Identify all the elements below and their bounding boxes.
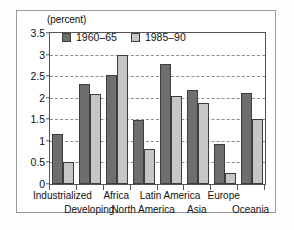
y-axis-tick-label: 2 xyxy=(39,92,45,104)
bar xyxy=(241,93,252,184)
bar xyxy=(144,149,155,184)
x-axis-tick-mark xyxy=(183,185,184,190)
bar xyxy=(52,134,63,184)
bar xyxy=(117,55,128,184)
bar xyxy=(171,96,182,184)
legend-label: 1960–65 xyxy=(76,31,117,43)
x-axis-category-label: Latin America xyxy=(140,190,201,201)
bar xyxy=(90,94,101,184)
x-axis-category-label: North America xyxy=(111,204,174,215)
bar xyxy=(252,119,263,184)
x-axis-category-label: Developing xyxy=(64,204,114,215)
bar xyxy=(133,120,144,184)
y-axis-tick-label: 1 xyxy=(39,135,45,147)
x-axis-category-label: Asia xyxy=(187,204,206,215)
legend-swatch-icon xyxy=(62,33,71,42)
plot-area: 00.511.522.533.5 xyxy=(49,32,266,185)
bar xyxy=(214,144,225,184)
y-axis-tick-label: 3 xyxy=(39,49,45,61)
bars-layer xyxy=(50,33,265,184)
legend-entry: 1960–65 xyxy=(62,31,117,43)
x-axis-tick-mark xyxy=(157,185,158,190)
x-axis-tick-mark xyxy=(49,185,50,190)
y-axis-tick-label: 0 xyxy=(39,178,45,190)
bar xyxy=(225,173,236,184)
x-axis-category-label: Africa xyxy=(103,190,129,201)
bar xyxy=(63,162,74,184)
x-axis-tick-mark xyxy=(237,185,238,190)
x-axis-tick-mark xyxy=(264,185,265,190)
x-axis-tick-mark xyxy=(130,185,131,190)
figure-container: (percent) 00.511.522.533.5 1960–651985–9… xyxy=(0,0,294,230)
bar xyxy=(198,103,209,184)
y-axis-tick-label: 2.5 xyxy=(30,70,45,82)
bar xyxy=(106,75,117,184)
chart-legend: 1960–651985–90 xyxy=(62,31,186,43)
x-axis-tick-mark xyxy=(103,185,104,190)
legend-swatch-icon xyxy=(131,33,140,42)
y-axis-tick-label: 3.5 xyxy=(30,27,45,39)
y-axis-tick-label: 1.5 xyxy=(30,113,45,125)
x-axis-tick-mark xyxy=(210,185,211,190)
x-axis-category-label: Oceania xyxy=(232,204,269,215)
bar xyxy=(160,64,171,184)
x-axis-category-label: Industrialized xyxy=(33,190,92,201)
legend-entry: 1985–90 xyxy=(131,31,186,43)
x-axis-category-label: Europe xyxy=(208,190,240,201)
legend-label: 1985–90 xyxy=(145,31,186,43)
x-axis-tick-mark xyxy=(76,185,77,190)
bar xyxy=(79,84,90,184)
bar xyxy=(187,90,198,184)
y-axis-unit-label: (percent) xyxy=(47,14,86,25)
y-axis-tick-label: 0.5 xyxy=(30,156,45,168)
